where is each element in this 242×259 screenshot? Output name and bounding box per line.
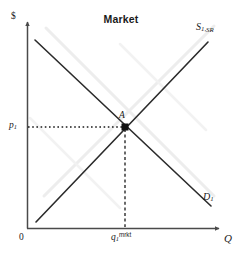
y-axis-label: $ bbox=[11, 12, 16, 22]
supply-curve-label: S1,SR bbox=[196, 22, 214, 35]
equilibrium-point-marker bbox=[122, 124, 129, 131]
demand-curve bbox=[35, 40, 211, 206]
supply-curve bbox=[36, 42, 208, 222]
demand-label-sub: 1 bbox=[210, 195, 213, 202]
demand-curve-label: D1 bbox=[203, 192, 214, 203]
price-label-sub: 1 bbox=[14, 123, 17, 130]
supply-label-sub-sr: SR bbox=[206, 27, 214, 34]
origin-label: 0 bbox=[19, 233, 24, 243]
quantity-axis-value-label: q1mrkt bbox=[111, 232, 131, 243]
equilibrium-point-label: A bbox=[119, 111, 125, 121]
market-supply-demand-figure: Market $ Q 0 S1,SR D1 A p1 q1mrkt bbox=[0, 0, 242, 259]
price-axis-value-label: p1 bbox=[9, 121, 17, 131]
chart-canvas bbox=[0, 0, 242, 259]
quantity-label-sup: mrkt bbox=[119, 231, 131, 238]
x-axis-label: Q bbox=[224, 233, 232, 244]
